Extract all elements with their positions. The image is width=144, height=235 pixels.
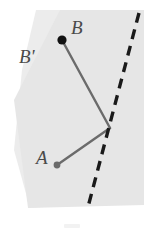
caption-crop-artifact	[64, 224, 80, 228]
label-point-b: B	[71, 18, 83, 37]
point-a-marker	[54, 162, 61, 169]
geometry-figure: B B' A	[0, 0, 144, 235]
label-point-a: A	[36, 148, 48, 167]
label-point-b-reflected: B'	[19, 47, 35, 66]
point-b-marker	[57, 35, 66, 44]
